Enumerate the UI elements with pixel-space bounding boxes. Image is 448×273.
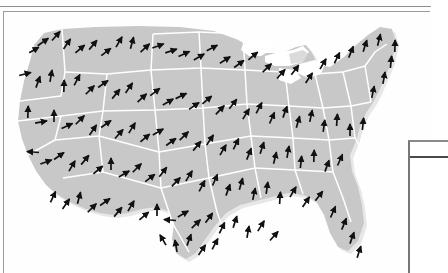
legend-table-header [410,142,448,156]
vector-arrow [164,219,176,220]
vector-arrow [280,192,281,204]
legend-table-body [410,158,448,273]
vector-arrow [258,221,264,231]
us-map-svg[interactable] [3,12,403,262]
vector-arrow [247,226,249,238]
vector-arrow [160,235,166,245]
map-landmass [18,26,396,259]
vector-arrow [212,239,218,250]
vector-arrow [139,212,148,220]
vector-arrow [337,114,338,126]
page-top-rule [0,6,431,7]
figure-container [3,12,403,262]
vector-arrow [50,192,55,203]
vector-arrow [27,151,39,152]
vector-arrow [270,232,278,241]
legend-table-cell-label [410,158,448,160]
legend-table-header-label [410,142,448,144]
legend-table[interactable] [408,140,448,273]
vector-arrow [233,216,237,227]
us-map[interactable] [3,12,403,262]
vector-arrow [303,197,310,207]
vector-arrow [357,246,361,257]
